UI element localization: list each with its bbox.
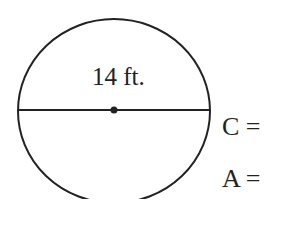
diameter-label: 14 ft.	[92, 64, 145, 89]
circumference-label: C =	[222, 114, 261, 140]
center-point	[111, 107, 118, 114]
area-label: A =	[222, 166, 261, 192]
